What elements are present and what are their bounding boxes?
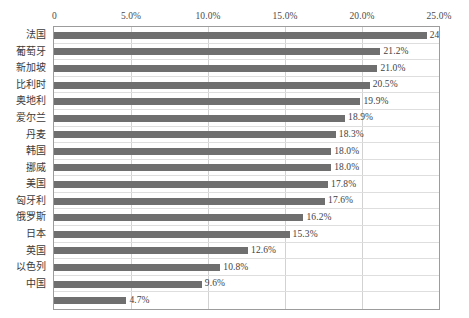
bar-value-label: 9.6%	[205, 275, 225, 292]
bar[interactable]	[54, 115, 345, 122]
bar-value-label: 18.0%	[334, 143, 359, 160]
bar[interactable]	[54, 231, 290, 238]
bar[interactable]	[54, 48, 380, 55]
y-tick-label: 日本	[0, 226, 50, 243]
y-tick-label: 挪威	[0, 160, 50, 177]
bar-rows: 24.2%21.2%21.0%20.5%19.9%18.9%18.3%18.0%…	[54, 27, 439, 309]
bar-row: 24.2%	[54, 27, 439, 44]
bar-value-label: 20.5%	[373, 76, 398, 93]
x-tick-label: 0	[52, 9, 57, 23]
bar[interactable]	[54, 32, 427, 39]
bar-value-label: 21.2%	[383, 43, 408, 60]
bar[interactable]	[54, 148, 331, 155]
bar-row: 10.8%	[54, 259, 439, 276]
bar-value-label: 17.6%	[328, 192, 353, 209]
bar[interactable]	[54, 297, 126, 304]
y-tick-label: 匈牙利	[0, 193, 50, 210]
plot-area: 24.2%21.2%21.0%20.5%19.9%18.9%18.3%18.0%…	[53, 26, 440, 310]
bar-value-label: 4.7%	[129, 292, 149, 309]
bar-value-label: 17.8%	[331, 176, 356, 193]
x-tick-label: 5.0%	[121, 9, 141, 23]
y-tick-label: 以色列	[0, 259, 50, 276]
bar-value-label: 10.8%	[223, 259, 248, 276]
bar[interactable]	[54, 214, 303, 221]
y-tick-label: 新加坡	[0, 60, 50, 77]
bar-row: 16.2%	[54, 209, 439, 226]
x-axis-tick-labels: 05.0%10.0%15.0%20.0%25.0%	[0, 9, 469, 25]
y-tick-label: 韩国	[0, 143, 50, 160]
bar-value-label: 18.3%	[339, 126, 364, 143]
bar[interactable]	[54, 82, 370, 89]
bar-value-label: 19.9%	[363, 93, 388, 110]
x-tick-label: 15.0%	[272, 9, 297, 23]
bar-row: 21.0%	[54, 60, 439, 77]
x-tick-label: 25.0%	[426, 9, 451, 23]
bar-row: 19.9%	[54, 93, 439, 110]
y-tick-label: 比利时	[0, 77, 50, 94]
bar-row: 21.2%	[54, 44, 439, 61]
y-tick-label: 俄罗斯	[0, 209, 50, 226]
bar-row: 17.8%	[54, 176, 439, 193]
bar-row: 18.0%	[54, 143, 439, 160]
bar-row: 9.6%	[54, 276, 439, 293]
bar[interactable]	[54, 264, 220, 271]
bar[interactable]	[54, 247, 248, 254]
y-axis-category-labels: 法国葡萄牙新加坡比利时奥地利爱尔兰丹麦韩国挪威美国匈牙利俄罗斯日本英国以色列中国	[0, 26, 50, 310]
bar-value-label: 16.2%	[306, 209, 331, 226]
y-tick-label: 奥地利	[0, 93, 50, 110]
bar-row: 12.6%	[54, 243, 439, 260]
bar-value-label: 18.9%	[348, 109, 373, 126]
bar-row: 20.5%	[54, 77, 439, 94]
y-tick-label: 葡萄牙	[0, 44, 50, 61]
bar-value-label: 15.3%	[293, 226, 318, 243]
bar-row: 18.9%	[54, 110, 439, 127]
bar-value-label: 18.0%	[334, 159, 359, 176]
bar[interactable]	[54, 98, 360, 105]
bar[interactable]	[54, 65, 377, 72]
y-tick-label: 法国	[0, 27, 50, 44]
y-tick-label: 美国	[0, 176, 50, 193]
x-tick-label: 20.0%	[349, 9, 374, 23]
y-tick-label: 中国	[0, 276, 50, 293]
y-tick-label: 丹麦	[0, 127, 50, 144]
bar-chart: 05.0%10.0%15.0%20.0%25.0% 法国葡萄牙新加坡比利时奥地利…	[0, 0, 469, 318]
bar-row: 15.3%	[54, 226, 439, 243]
y-tick-label: 英国	[0, 243, 50, 260]
bar[interactable]	[54, 181, 328, 188]
x-tick-label: 10.0%	[195, 9, 220, 23]
bar[interactable]	[54, 198, 325, 205]
bar-value-label: 24.2%	[430, 27, 440, 44]
bar-row: 18.0%	[54, 160, 439, 177]
bar[interactable]	[54, 164, 331, 171]
bar-value-label: 21.0%	[380, 60, 405, 77]
bar[interactable]	[54, 281, 202, 288]
bar-row: 18.3%	[54, 127, 439, 144]
bar-row: 17.6%	[54, 193, 439, 210]
bar-value-label: 12.6%	[251, 242, 276, 259]
bar[interactable]	[54, 131, 336, 138]
y-tick-label: 爱尔兰	[0, 110, 50, 127]
bar-row: 4.7%	[54, 292, 439, 309]
